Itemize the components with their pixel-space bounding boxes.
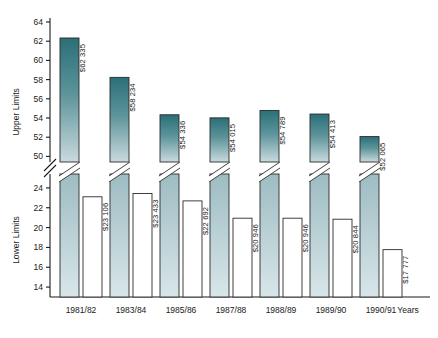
bar-upper-limit-continuation xyxy=(210,174,229,297)
value-label-upper: $54 789 xyxy=(278,116,287,144)
bar-upper-limit-continuation xyxy=(310,174,329,297)
value-label-lower: $23 106 xyxy=(101,203,110,231)
bar-lower-limit xyxy=(283,218,302,297)
value-label-lower: $17 777 xyxy=(401,256,410,284)
x-category-label: 1985/86 xyxy=(166,305,197,315)
y-tick-label-upper: 60 xyxy=(34,55,44,65)
y-tick-label-lower: 16 xyxy=(34,262,44,272)
x-category-label: 1987/88 xyxy=(216,305,247,315)
bar-upper-limit xyxy=(360,137,379,162)
x-category-label: 1989/90 xyxy=(316,305,347,315)
bar-lower-limit xyxy=(233,218,252,297)
bar-lower-limit xyxy=(183,201,202,297)
bar-upper-limit xyxy=(260,110,279,162)
y-tick-label-upper: 54 xyxy=(34,113,44,123)
bar-lower-limit xyxy=(383,250,402,297)
bar-upper-limit-continuation xyxy=(160,174,179,297)
bar-upper-limit xyxy=(210,118,229,162)
bar-upper-limit xyxy=(60,38,79,162)
y-tick-label-upper: 50 xyxy=(34,151,44,161)
value-label-upper: $54 413 xyxy=(328,120,337,148)
x-category-label: 1990/91 xyxy=(366,305,397,315)
value-label-lower: $20 844 xyxy=(351,225,360,253)
bar-upper-limit xyxy=(110,77,129,162)
bar-upper-limit xyxy=(310,114,329,162)
bar-upper-limit-continuation xyxy=(260,174,279,297)
y-tick-label-lower: 18 xyxy=(34,242,44,252)
y-tick-label-upper: 58 xyxy=(34,75,44,85)
x-axis-title: Years xyxy=(397,305,418,315)
x-category-label: 1988/89 xyxy=(266,305,297,315)
value-label-upper: $62 335 xyxy=(78,44,87,72)
y-tick-label-upper: 52 xyxy=(34,132,44,142)
y-tick-label-upper: 62 xyxy=(34,36,44,46)
y-tick-label-lower: 22 xyxy=(34,203,44,213)
value-label-lower: $22 692 xyxy=(201,207,210,235)
y-tick-label-upper: 56 xyxy=(34,94,44,104)
y-tick-label-lower: 24 xyxy=(34,183,44,193)
value-label-lower: $23 433 xyxy=(151,200,160,228)
bar-upper-limit-continuation xyxy=(360,174,379,297)
value-label-upper: $54 015 xyxy=(228,124,237,152)
chart-container: 5052545658606264141618202224 $62 335$23 … xyxy=(0,0,438,338)
bar-upper-limit-continuation xyxy=(60,174,79,297)
bar-upper-limit-continuation xyxy=(110,174,129,297)
bar-lower-limit xyxy=(333,219,352,297)
y-axis-upper-title: Upper Limits xyxy=(11,88,21,136)
x-category-label: 1983/84 xyxy=(116,305,147,315)
y-axis-lower-title: Lower Limits xyxy=(11,216,21,264)
bar-upper-limit xyxy=(160,115,179,162)
value-label-upper: $54 336 xyxy=(178,121,187,149)
y-tick-label-upper: 64 xyxy=(34,17,44,27)
x-category-label: 1981/82 xyxy=(66,305,97,315)
value-label-lower: $20 946 xyxy=(251,224,260,252)
bar-lower-limit xyxy=(133,194,152,297)
y-tick-label-lower: 14 xyxy=(34,282,44,292)
y-tick-label-lower: 20 xyxy=(34,223,44,233)
value-label-lower: $20 946 xyxy=(301,224,310,252)
value-label-upper: $58 234 xyxy=(128,83,137,111)
double-axis-bar-chart: 5052545658606264141618202224 $62 335$23 … xyxy=(0,0,438,338)
value-label-upper: $52 065 xyxy=(378,143,387,171)
bar-lower-limit xyxy=(83,197,102,297)
